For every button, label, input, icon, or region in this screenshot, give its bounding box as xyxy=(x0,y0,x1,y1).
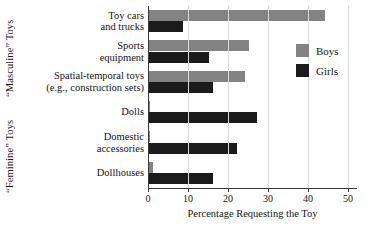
x-tick-10 xyxy=(188,188,189,192)
x-axis-line xyxy=(148,188,357,189)
category-label-line1: Sports xyxy=(117,40,144,51)
bar-boys-2 xyxy=(149,71,245,82)
x-tick-40 xyxy=(308,188,309,192)
bar-girls-3 xyxy=(149,112,257,123)
bar-girls-5 xyxy=(149,173,213,184)
category-label-line2: equipment xyxy=(26,52,144,64)
category-label-1: Sportsequipment xyxy=(26,40,144,63)
legend: BoysGirls xyxy=(296,44,372,84)
bar-girls-4 xyxy=(149,143,237,154)
x-tick-label-50: 50 xyxy=(343,193,353,204)
legend-swatch-girls xyxy=(296,64,309,77)
category-label-5: Dollhouses xyxy=(26,167,144,179)
x-tick-label-20: 20 xyxy=(223,193,233,204)
plot-area xyxy=(148,6,357,188)
x-tick-label-0: 0 xyxy=(146,193,151,204)
x-tick-20 xyxy=(228,188,229,192)
category-label-3: Dolls xyxy=(26,106,144,118)
category-label-line1: Dollhouses xyxy=(97,167,144,178)
bar-boys-4 xyxy=(149,131,150,142)
x-tick-0 xyxy=(148,188,149,192)
bar-girls-2 xyxy=(149,82,213,93)
bar-boys-0 xyxy=(149,10,325,21)
x-tick-30 xyxy=(268,188,269,192)
x-tick-label-30: 30 xyxy=(263,193,273,204)
category-label-4: Domesticaccessories xyxy=(26,131,144,154)
x-tick-label-10: 10 xyxy=(183,193,193,204)
category-label-line1: Toy cars xyxy=(108,10,144,21)
category-label-line2: (e.g., construction sets) xyxy=(26,82,144,94)
bar-boys-1 xyxy=(149,40,249,51)
category-label-0: Toy carsand trucks xyxy=(26,10,144,33)
category-label-line2: accessories xyxy=(26,143,144,155)
legend-label-girls: Girls xyxy=(316,65,338,77)
legend-swatch-boys xyxy=(296,44,309,57)
group-label-feminine: “Feminine” Toys xyxy=(4,92,15,220)
category-label-2: Spatial-temporal toys(e.g., construction… xyxy=(26,70,144,93)
category-label-line1: Dolls xyxy=(121,106,144,117)
x-axis-title: Percentage Requesting the Toy xyxy=(148,208,357,219)
bar-girls-1 xyxy=(149,52,209,63)
bar-boys-3 xyxy=(149,101,150,112)
category-label-line2: and trucks xyxy=(26,21,144,33)
category-label-line1: Domestic xyxy=(104,131,144,142)
bar-girls-0 xyxy=(149,21,183,32)
category-label-column: Toy carsand trucksSportsequipmentSpatial… xyxy=(26,6,144,188)
x-tick-label-40: 40 xyxy=(303,193,313,204)
legend-label-boys: Boys xyxy=(316,45,339,57)
category-label-line1: Spatial-temporal toys xyxy=(54,70,144,81)
bar-boys-5 xyxy=(149,162,153,173)
legend-item-girls: Girls xyxy=(296,64,372,77)
x-tick-50 xyxy=(348,188,349,192)
legend-item-boys: Boys xyxy=(296,44,372,57)
